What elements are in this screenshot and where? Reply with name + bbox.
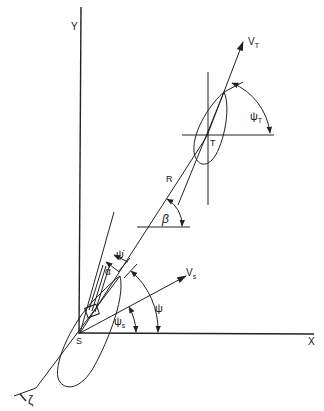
y-axis xyxy=(79,7,81,334)
y-axis-label: Y xyxy=(71,21,78,32)
turn-rate-label: ψ̇ xyxy=(116,248,125,260)
target-point-label: T xyxy=(210,138,216,148)
target-velocity-label: VT xyxy=(248,36,260,49)
x-axis-label: X xyxy=(308,336,315,347)
heading-label: ψ xyxy=(155,302,163,314)
ship-velocity-label: Vs xyxy=(186,267,197,280)
own-ship-hull xyxy=(57,276,121,387)
beta-arc xyxy=(167,199,182,226)
own-ship-axis xyxy=(36,276,120,388)
turn-rate-tick-2 xyxy=(124,264,137,278)
range-label: R xyxy=(166,174,173,184)
ship-point-label: S xyxy=(76,336,82,346)
wake-label: ζ xyxy=(28,393,34,407)
rudder-shaft-1 xyxy=(89,265,103,310)
wake-mark xyxy=(20,394,26,401)
x-axis xyxy=(79,333,314,334)
target-ship-axis xyxy=(178,92,224,205)
target-heading-arc xyxy=(232,83,270,133)
target-heading-label: ψT xyxy=(250,110,263,124)
ship-heading-label: ψs xyxy=(114,315,126,329)
los-angle-label: β xyxy=(161,212,169,226)
ship-heading-arc xyxy=(129,307,136,332)
target-velocity-vector xyxy=(207,42,243,136)
rudder-angle-label: α xyxy=(105,266,111,277)
pursuit-diagram: Y X S T VT Vs R β ψT ψs ψ ψ̇ α ζ xyxy=(0,0,324,411)
